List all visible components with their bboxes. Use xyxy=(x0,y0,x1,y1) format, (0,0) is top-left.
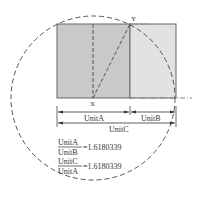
formula-1-denominator: UnitB xyxy=(58,148,78,157)
point-y-label: Y xyxy=(131,15,136,23)
label-unit-c: UnitC xyxy=(109,125,129,134)
arrow-right-icon xyxy=(124,111,129,114)
arrow-left-icon xyxy=(58,122,63,125)
formula-2-denominator: UnitA xyxy=(58,167,78,176)
formula-2-value: =1.6180339 xyxy=(83,162,122,171)
label-unit-a: UnitA xyxy=(84,114,104,123)
golden-remainder-rect xyxy=(130,24,176,98)
formula-1-value: =1.6180339 xyxy=(83,143,122,152)
arrow-left-icon xyxy=(58,111,63,114)
formula-1-numerator: UnitA xyxy=(58,138,78,147)
arrow-right-icon xyxy=(170,122,175,125)
golden-ratio-diagram: Y X UnitA UnitB UnitC UnitA UnitB =1.618… xyxy=(0,0,204,197)
formula-2-numerator: UnitC xyxy=(58,157,78,166)
arrow-left-icon xyxy=(131,111,136,114)
label-unit-b: UnitB xyxy=(141,114,161,123)
point-x-label: X xyxy=(90,100,95,108)
